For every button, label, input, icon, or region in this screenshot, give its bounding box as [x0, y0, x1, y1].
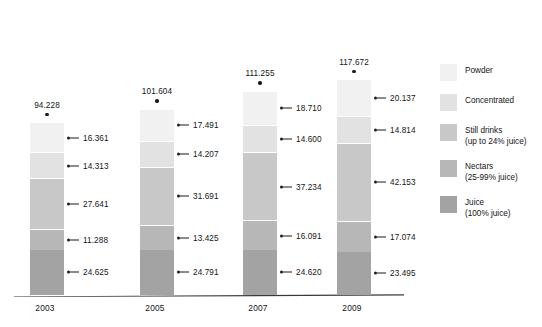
- bar-total-value: 94.228: [30, 101, 64, 111]
- segment-label: 14.313: [64, 161, 109, 170]
- segment-label: 23.495: [371, 269, 416, 278]
- bar-segment[interactable]: 14.814: [337, 116, 371, 143]
- segment-value: 17.074: [390, 232, 416, 241]
- bar-segment[interactable]: 14.313: [30, 152, 64, 178]
- stacked-bar[interactable]: 23.49517.07442.15314.81420.137: [337, 79, 371, 295]
- x-axis-label-2007: 2007: [228, 303, 288, 313]
- segment-label: 14.814: [371, 126, 416, 135]
- x-axis-label-2009: 2009: [322, 303, 382, 313]
- bar-total-value: 117.672: [337, 58, 371, 68]
- bar-segment[interactable]: 17.491: [140, 109, 174, 141]
- leader-line-icon: [70, 165, 79, 166]
- leader-dot-icon: [67, 271, 70, 274]
- bar-segment[interactable]: 37.234: [243, 152, 277, 220]
- segment-label: 16.091: [277, 231, 322, 240]
- legend-item[interactable]: Concentrated: [440, 94, 540, 111]
- leader-line-icon: [70, 239, 79, 240]
- legend-sublabel: (up to 24% juice): [465, 137, 526, 148]
- segment-label: 14.600: [277, 135, 322, 144]
- leader-line-icon: [377, 236, 386, 237]
- segment-value: 17.491: [193, 121, 219, 130]
- stacked-bar[interactable]: 24.79113.42531.69114.20717.491: [140, 109, 174, 296]
- leader-dot-icon: [374, 272, 377, 275]
- segment-value: 27.641: [83, 200, 109, 209]
- leader-dot-icon: [177, 124, 180, 127]
- segment-label: 20.137: [371, 94, 416, 103]
- leader-dot-icon: [374, 235, 377, 238]
- segment-label: 11.288: [64, 235, 108, 244]
- legend-item[interactable]: Nectars(25-99% juice): [440, 160, 540, 183]
- stacked-bar[interactable]: 24.62016.09137.23414.60018.710: [243, 91, 277, 295]
- legend-text: Concentrated: [465, 94, 514, 107]
- segment-label: 24.791: [174, 268, 219, 277]
- bar-segment[interactable]: 24.625: [30, 250, 64, 295]
- legend-item[interactable]: Still drinks(up to 24% juice): [440, 124, 540, 147]
- leader-dot-icon: [374, 129, 377, 132]
- segment-value: 31.691: [193, 192, 219, 201]
- legend-swatch-icon: [440, 196, 457, 213]
- segment-value: 23.495: [390, 269, 416, 278]
- x-axis-label-2005: 2005: [125, 303, 185, 313]
- segment-value: 37.234: [296, 182, 322, 191]
- bar-segment[interactable]: 42.153: [337, 143, 371, 220]
- leader-line-icon: [283, 139, 292, 140]
- bar-group: 111.25524.62016.09137.23414.60018.710: [243, 91, 277, 295]
- bar-group: 94.22824.62511.28827.64114.31316.361: [30, 122, 64, 295]
- bar-segment[interactable]: 31.691: [140, 167, 174, 225]
- leader-dot-icon: [280, 271, 283, 274]
- leader-dot-icon: [67, 203, 70, 206]
- leader-line-icon: [283, 108, 292, 109]
- segment-value: 42.153: [390, 178, 416, 187]
- bar-total-marker-icon: [45, 113, 48, 116]
- leader-dot-icon: [280, 234, 283, 237]
- stacked-bar[interactable]: 24.62511.28827.64114.31316.361: [30, 122, 64, 295]
- segment-label: 27.641: [64, 200, 109, 209]
- bar-segment[interactable]: 14.600: [243, 125, 277, 152]
- segment-label: 24.625: [64, 268, 109, 277]
- bar-segment[interactable]: 20.137: [337, 79, 371, 116]
- leader-line-icon: [180, 237, 189, 238]
- bar-segment[interactable]: 24.620: [243, 250, 277, 295]
- legend-text: Still drinks(up to 24% juice): [465, 124, 526, 147]
- leader-line-icon: [180, 196, 189, 197]
- plot-area: 94.22824.62511.28827.64114.31316.3612003…: [0, 0, 420, 327]
- legend-swatch-icon: [440, 160, 457, 177]
- leader-line-icon: [180, 125, 189, 126]
- bar-segment[interactable]: 11.288: [30, 229, 64, 250]
- bar-segment[interactable]: 24.791: [140, 250, 174, 296]
- bar-segment[interactable]: 23.495: [337, 252, 371, 295]
- bar-total: 117.672: [337, 58, 371, 73]
- bar-total-marker-icon: [258, 81, 261, 84]
- leader-line-icon: [377, 98, 386, 99]
- segment-value: 14.313: [83, 161, 109, 170]
- bar-segment[interactable]: 16.361: [30, 122, 64, 152]
- leader-dot-icon: [67, 136, 70, 139]
- segment-label: 18.710: [277, 104, 322, 113]
- legend-label: Powder: [465, 66, 493, 77]
- bar-total: 101.604: [140, 87, 174, 102]
- segment-value: 11.288: [83, 235, 108, 244]
- bar-total-marker-icon: [352, 70, 355, 73]
- leader-dot-icon: [374, 181, 377, 184]
- leader-line-icon: [283, 235, 292, 236]
- bar-segment[interactable]: 27.641: [30, 178, 64, 229]
- segment-label: 31.691: [174, 192, 219, 201]
- segment-value: 14.207: [193, 150, 219, 159]
- bar-total: 94.228: [30, 101, 64, 116]
- chart-root: 94.22824.62511.28827.64114.31316.3612003…: [0, 0, 542, 327]
- bar-segment[interactable]: 16.091: [243, 220, 277, 250]
- bar-segment[interactable]: 14.207: [140, 141, 174, 167]
- segment-label: 37.234: [277, 182, 322, 191]
- legend-item[interactable]: Juice(100% juice): [440, 196, 540, 219]
- bar-segment[interactable]: 18.710: [243, 91, 277, 125]
- bar-group: 101.60424.79113.42531.69114.20717.491: [140, 109, 174, 296]
- legend-item[interactable]: Powder: [440, 64, 540, 81]
- legend-sublabel: (25-99% juice): [465, 173, 518, 184]
- bar-segment[interactable]: 13.425: [140, 225, 174, 250]
- leader-line-icon: [180, 154, 189, 155]
- leader-dot-icon: [177, 271, 180, 274]
- leader-line-icon: [70, 204, 79, 205]
- legend-label: Concentrated: [465, 96, 514, 107]
- bar-segment[interactable]: 17.074: [337, 221, 371, 252]
- bar-group: 117.67223.49517.07442.15314.81420.137: [337, 79, 371, 295]
